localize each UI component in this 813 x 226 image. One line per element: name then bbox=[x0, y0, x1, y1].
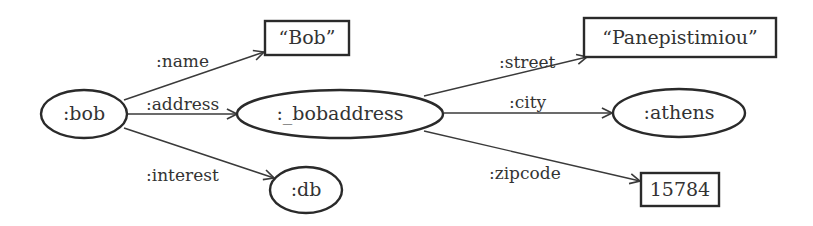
edge-interest: :interest bbox=[124, 128, 274, 185]
node-street-literal: “Panepistimiou” bbox=[584, 18, 776, 57]
edge-city: :city bbox=[444, 92, 612, 113]
rdf-graph-diagram: :name :address :interest :street :city :… bbox=[0, 0, 813, 226]
edge-street: :street bbox=[424, 52, 587, 96]
node-bob: :bob bbox=[41, 90, 127, 138]
edge-name: :name bbox=[124, 51, 264, 100]
edge-label-address: :address bbox=[146, 94, 219, 114]
node-bob-literal: “Bob” bbox=[265, 21, 349, 55]
edge-label-city: :city bbox=[509, 92, 547, 112]
node-athens: :athens bbox=[613, 89, 745, 137]
edge-zipcode: :zipcode bbox=[424, 131, 640, 183]
edge-address: :address bbox=[127, 94, 237, 114]
node-db: :db bbox=[270, 167, 342, 213]
edge-label-interest: :interest bbox=[146, 165, 219, 185]
node-bob-literal-label: “Bob” bbox=[279, 26, 336, 48]
node-athens-label: :athens bbox=[644, 101, 715, 123]
node-db-label: :db bbox=[291, 178, 322, 200]
node-zip-literal: 15784 bbox=[641, 173, 719, 206]
node-zip-literal-label: 15784 bbox=[650, 178, 710, 200]
edge-label-name: :name bbox=[156, 51, 209, 71]
node-bobaddress-label: :_bobaddress bbox=[276, 102, 403, 125]
edge-label-street: :street bbox=[499, 52, 556, 72]
node-street-literal-label: “Panepistimiou” bbox=[602, 26, 758, 48]
edge-label-zipcode: :zipcode bbox=[489, 163, 561, 183]
node-bob-label: :bob bbox=[63, 102, 105, 124]
node-bobaddress: :_bobaddress bbox=[237, 90, 443, 138]
